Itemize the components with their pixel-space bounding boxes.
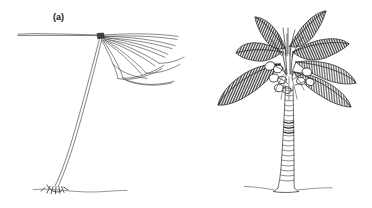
frond-cluster-right [102,34,184,85]
trunk-leaf-scar-rings [280,90,294,181]
trunk [55,39,102,187]
figure-container: (a) [0,0,372,208]
ground-line [33,189,127,192]
frond-left-long [18,34,100,36]
panel-b: (b) [186,0,372,208]
trunk [278,86,294,188]
trunk-base [274,188,299,193]
panel-a: (a) [0,0,186,208]
crown-apex-node [98,33,105,38]
trunk-dark-band [284,122,294,133]
panel-a-drawing [0,0,186,208]
panel-b-drawing [186,0,372,208]
ground-line [244,186,332,190]
